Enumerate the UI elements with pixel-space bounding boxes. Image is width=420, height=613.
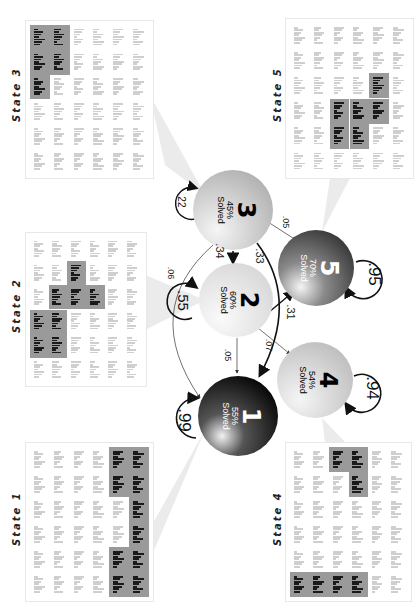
mini-histogram xyxy=(333,451,345,469)
node-4-solved: Solved xyxy=(298,350,307,410)
grid-cell-highlighted xyxy=(67,261,86,285)
mini-histogram xyxy=(334,127,346,145)
mini-histogram xyxy=(133,54,145,71)
node-2-percent: 60% xyxy=(228,270,237,330)
mini-histogram xyxy=(93,451,105,469)
grid-cell xyxy=(49,261,68,285)
grid-cell xyxy=(86,261,105,285)
mini-histogram xyxy=(372,476,384,494)
grid-cell xyxy=(30,285,49,309)
grid-cell xyxy=(30,100,50,125)
grid-cell xyxy=(290,73,310,98)
grid-cell xyxy=(290,547,310,572)
mini-histogram xyxy=(93,576,105,594)
grid-cell xyxy=(90,75,110,100)
grid-cell-highlighted xyxy=(350,124,370,149)
grid-cell xyxy=(123,261,142,285)
grid-cell xyxy=(50,149,70,174)
grid-cell xyxy=(90,497,110,522)
grid-cell xyxy=(30,547,50,572)
mini-histogram xyxy=(352,551,364,569)
grid-cell xyxy=(30,572,50,597)
grid-cell xyxy=(70,149,90,174)
grid-cell xyxy=(290,149,310,174)
mini-histogram xyxy=(113,476,125,494)
mini-histogram xyxy=(294,576,306,594)
node-4-number: 4 xyxy=(316,350,340,410)
grid-cell xyxy=(30,237,49,261)
mini-histogram xyxy=(90,265,101,282)
grid-cell xyxy=(329,547,349,572)
grid-cell xyxy=(90,100,110,125)
edge-2-4-label: .07 xyxy=(264,339,274,352)
mini-histogram xyxy=(71,313,82,330)
mini-histogram xyxy=(34,526,46,544)
grid-cell xyxy=(129,25,149,50)
grid-cell xyxy=(330,73,350,98)
state-2-label: State 2 xyxy=(11,278,22,333)
mini-histogram xyxy=(373,153,385,171)
mini-histogram xyxy=(127,337,138,354)
grid-cell xyxy=(50,497,70,522)
mini-histogram xyxy=(108,313,119,330)
mini-histogram xyxy=(113,501,125,519)
grid-cell xyxy=(310,547,330,572)
mini-histogram xyxy=(93,153,105,170)
mini-histogram xyxy=(71,265,82,282)
mini-histogram xyxy=(294,451,306,469)
grid-cell xyxy=(310,472,330,497)
grid-cell xyxy=(109,149,129,174)
mini-histogram xyxy=(373,102,385,120)
mini-histogram xyxy=(133,128,145,145)
grid-cell xyxy=(389,23,409,48)
grid-cell xyxy=(70,522,90,547)
grid-cell xyxy=(30,522,50,547)
grid-cell xyxy=(123,358,142,382)
grid-cell-highlighted xyxy=(129,522,149,547)
mini-histogram xyxy=(34,576,46,594)
grid-cell xyxy=(129,50,149,75)
mini-histogram xyxy=(352,501,364,519)
grid-cell xyxy=(109,25,129,50)
mini-histogram xyxy=(391,501,403,519)
grid-cell xyxy=(350,23,370,48)
mini-histogram xyxy=(372,526,384,544)
grid-cell xyxy=(388,522,408,547)
mini-histogram xyxy=(133,103,145,120)
mini-histogram xyxy=(373,127,385,145)
mini-histogram xyxy=(313,551,325,569)
grid-cell xyxy=(349,522,369,547)
mini-histogram xyxy=(34,501,46,519)
grid-cell xyxy=(310,124,330,149)
grid-cell xyxy=(290,124,310,149)
mini-histogram xyxy=(93,476,105,494)
grid-cell xyxy=(389,73,409,98)
grid-cell-highlighted xyxy=(369,73,389,98)
mini-histogram xyxy=(294,77,306,95)
mini-histogram xyxy=(372,551,384,569)
grid-cell xyxy=(90,124,110,149)
mini-histogram xyxy=(393,27,405,45)
mini-histogram xyxy=(294,153,306,171)
grid-cell xyxy=(86,358,105,382)
grid-cell xyxy=(350,149,370,174)
mini-histogram xyxy=(52,361,63,378)
mini-histogram xyxy=(127,289,138,306)
grid-cell-highlighted xyxy=(290,572,310,597)
node-5-number: 5 xyxy=(317,238,341,298)
grid-cell-highlighted xyxy=(109,447,129,472)
mini-histogram xyxy=(34,241,45,258)
mini-histogram xyxy=(54,153,66,170)
mini-histogram xyxy=(74,451,86,469)
grid-cell xyxy=(290,522,310,547)
node-3-solved: Solved xyxy=(216,180,225,240)
grid-cell xyxy=(109,50,129,75)
mini-histogram xyxy=(71,241,82,258)
grid-cell xyxy=(70,124,90,149)
mini-histogram xyxy=(52,337,63,354)
mini-histogram xyxy=(372,451,384,469)
state-4-panel xyxy=(285,442,412,602)
state-transition-diagram: State 3 State 5 State 2 State 1 State 4 … xyxy=(0,0,420,613)
node-4-self-loop-label: .94 xyxy=(362,376,382,400)
grid-cell-highlighted xyxy=(329,572,349,597)
